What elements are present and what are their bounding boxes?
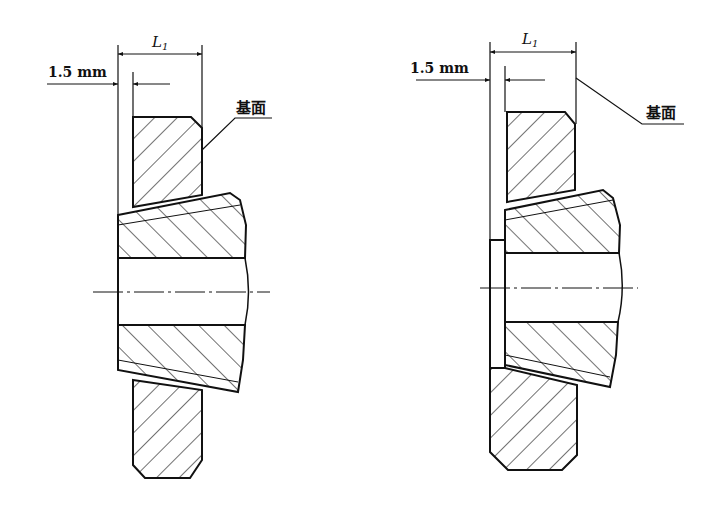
datum-leader: [202, 118, 272, 150]
gear-lower-section: [133, 380, 202, 478]
l1-label: L1: [151, 33, 168, 52]
figure-right: L1 1.5 mm 基面: [410, 30, 684, 470]
offset-dimension-label: 1.5 mm: [48, 64, 107, 80]
l1-label: L1: [521, 30, 538, 49]
figure-left: L1 1.5 mm 基面: [47, 33, 272, 478]
gear-upper-section: [507, 112, 575, 202]
gear-lower-section: [490, 365, 577, 470]
datum-label: 基面: [645, 104, 676, 122]
gear-upper-section: [133, 117, 202, 207]
datum-label: 基面: [235, 99, 266, 117]
drawing-canvas: L1 1.5 mm 基面 L1 1.5 mm 基面: [0, 0, 728, 511]
shim-washer: [490, 240, 505, 368]
offset-dimension-label: 1.5 mm: [410, 60, 469, 76]
